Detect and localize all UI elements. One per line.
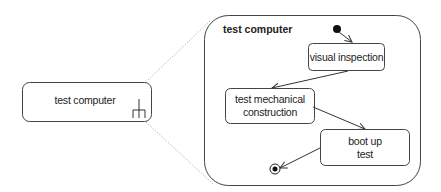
final-state-inner: [273, 167, 278, 172]
zoom-line-bottom: [146, 122, 213, 184]
state-visual-inspection-label: visual inspection: [308, 51, 385, 63]
state-mechanical-label-line2: construction: [225, 106, 315, 118]
expanded-state-title: test computer: [223, 23, 292, 35]
zoom-line-top: [148, 20, 211, 80]
state-boot-up-label-line2: test: [320, 148, 410, 160]
state-mechanical-label-line1: test mechanical: [225, 93, 315, 105]
state-boot-up-label-line1: boot up: [320, 135, 410, 147]
composite-state-label: test computer: [40, 94, 130, 106]
initial-state-dot: [333, 25, 341, 33]
